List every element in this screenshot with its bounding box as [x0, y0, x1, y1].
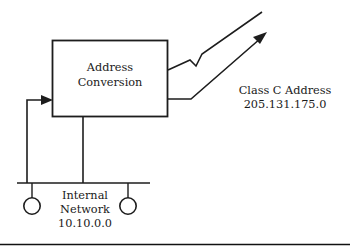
internal-network-label-line2: Network [60, 203, 110, 216]
network-diagram: Address Conversion Class C Address 205.1… [0, 0, 350, 249]
upper-external-link [168, 12, 262, 70]
address-conversion-label-line2: Conversion [78, 76, 143, 89]
class-c-address-label-line2: 205.131.175.0 [244, 98, 327, 111]
host-node-right[interactable] [120, 198, 136, 214]
feedback-arrow-to-box [27, 100, 45, 183]
diagram-canvas: Address Conversion Class C Address 205.1… [0, 0, 350, 249]
class-c-address-label-line1: Class C Address [239, 84, 332, 97]
host-node-left[interactable] [24, 198, 40, 214]
internal-network-label-line3: 10.10.0.0 [58, 217, 112, 230]
internal-network-label-line1: Internal [62, 189, 108, 202]
feedback-arrowhead [41, 95, 53, 105]
address-conversion-label-line1: Address [86, 61, 134, 74]
